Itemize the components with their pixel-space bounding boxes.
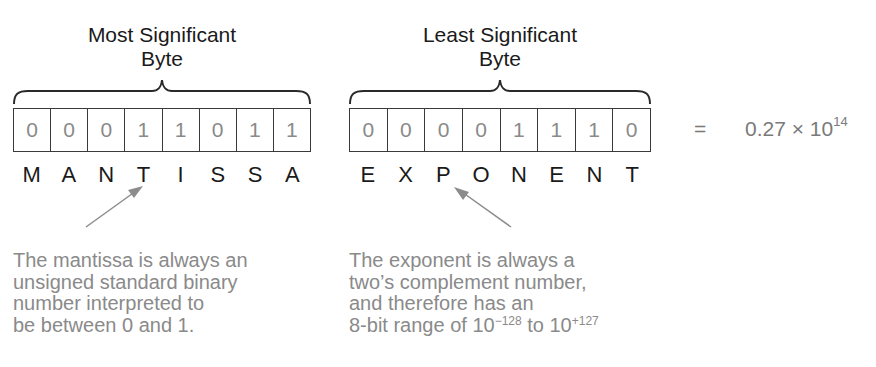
exponent-note-line: two’s complement number, — [349, 272, 679, 294]
msb-bit-1: 1 — [237, 109, 274, 151]
msb-brace — [14, 80, 310, 104]
mantissa-note: The mantissa is always an unsigned stand… — [13, 250, 333, 336]
exponent-arrow — [454, 187, 511, 227]
mantissa-letter: S — [199, 162, 236, 188]
lsb-bit-4: 0 — [463, 109, 501, 151]
lsb-bit-0: 0 — [613, 109, 650, 151]
msb-bit-5: 0 — [88, 109, 125, 151]
msb-title: Most Significant Byte — [40, 23, 284, 71]
range-high-exp: +127 — [572, 314, 599, 328]
exponent-note-line: and therefore has an — [349, 293, 679, 315]
msb-title-line1: Most Significant — [40, 23, 284, 47]
result-value: 0.27 × 1014 — [745, 117, 848, 141]
range-low-base: 10 — [472, 314, 494, 336]
mantissa-note-line: unsigned standard binary — [13, 272, 333, 294]
exponent-letter: N — [576, 162, 614, 188]
exponent-range-line: 8-bit range of 10−128 to 10+127 — [349, 315, 679, 337]
exponent-label: E X P O N E N T — [349, 162, 651, 188]
lsb-title: Least Significant Byte — [378, 23, 622, 71]
mantissa-arrow — [86, 186, 143, 227]
range-low-exp: −128 — [495, 314, 522, 328]
mantissa-note-line: The mantissa is always an — [13, 250, 333, 272]
msb-title-line2: Byte — [40, 47, 284, 71]
equals-sign: = — [694, 117, 706, 141]
lsb-register: 0 0 0 0 1 1 1 0 — [349, 108, 651, 152]
exponent-letter: T — [613, 162, 651, 188]
msb-bit-6: 0 — [51, 109, 88, 151]
lsb-bit-3: 1 — [501, 109, 539, 151]
result-base: 10 — [810, 117, 833, 140]
exponent-note-line: The exponent is always a — [349, 250, 679, 272]
result-mantissa: 0.27 — [745, 117, 786, 140]
mantissa-letter: A — [274, 162, 311, 188]
exponent-letter: E — [349, 162, 387, 188]
msb-bit-4: 1 — [125, 109, 162, 151]
lsb-bit-6: 0 — [388, 109, 426, 151]
result-exponent: 14 — [833, 114, 847, 129]
exponent-letter: N — [500, 162, 538, 188]
msb-bit-3: 1 — [163, 109, 200, 151]
lsb-brace — [350, 80, 650, 104]
lsb-bit-5: 0 — [425, 109, 463, 151]
mantissa-letter: N — [88, 162, 125, 188]
mantissa-letter: I — [162, 162, 199, 188]
lsb-title-line1: Least Significant — [378, 23, 622, 47]
msb-bit-0: 1 — [274, 109, 310, 151]
range-mid: to — [522, 314, 550, 336]
mantissa-letter: A — [50, 162, 87, 188]
lsb-bit-2: 1 — [538, 109, 576, 151]
mantissa-label: M A N T I S S A — [13, 162, 311, 188]
times-sign: × — [792, 117, 804, 140]
lsb-title-line2: Byte — [378, 47, 622, 71]
exponent-letter: P — [425, 162, 463, 188]
exponent-note: The exponent is always a two’s complemen… — [349, 250, 679, 336]
range-prefix: 8-bit range of — [349, 314, 472, 336]
lsb-bit-1: 1 — [576, 109, 614, 151]
mantissa-letter: S — [237, 162, 274, 188]
mantissa-note-line: be between 0 and 1. — [13, 315, 333, 337]
mantissa-letter: M — [13, 162, 50, 188]
lsb-bit-7: 0 — [350, 109, 388, 151]
mantissa-note-line: number interpreted to — [13, 293, 333, 315]
msb-bit-2: 0 — [200, 109, 237, 151]
range-high-base: 10 — [550, 314, 572, 336]
msb-bit-7: 0 — [14, 109, 51, 151]
exponent-letter: X — [387, 162, 425, 188]
exponent-letter: E — [538, 162, 576, 188]
mantissa-letter: T — [125, 162, 162, 188]
exponent-letter: O — [462, 162, 500, 188]
msb-register: 0 0 0 1 1 0 1 1 — [13, 108, 311, 152]
